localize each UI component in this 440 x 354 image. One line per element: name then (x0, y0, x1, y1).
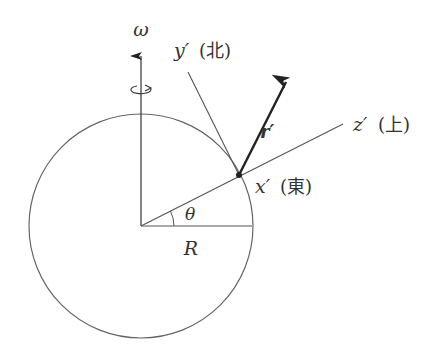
r-prime-label: r′ (260, 121, 274, 142)
y-prime-axis-line (188, 72, 239, 175)
radius-label: R (183, 237, 198, 259)
theta-arc (170, 211, 174, 226)
y-prime-label: y′ (173, 39, 190, 61)
z-direction-label: (上) (378, 114, 410, 135)
x-prime-label: x′ (255, 175, 271, 197)
x-direction-label: (東) (280, 176, 312, 197)
theta-label: θ (185, 204, 195, 224)
y-direction-label: (北) (199, 40, 231, 61)
surface-point (236, 172, 242, 178)
omega-label: ω (133, 18, 149, 40)
z-prime-label: z′ (352, 113, 368, 135)
earth-rotation-diagram: ω y′ (北) z′ (上) x′ (東) r′ θ R (0, 0, 440, 354)
